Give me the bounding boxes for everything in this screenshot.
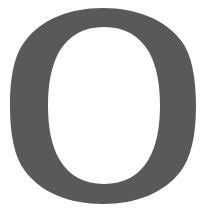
letter-o-glyph xyxy=(0,0,206,212)
glyph-canvas xyxy=(0,0,206,212)
